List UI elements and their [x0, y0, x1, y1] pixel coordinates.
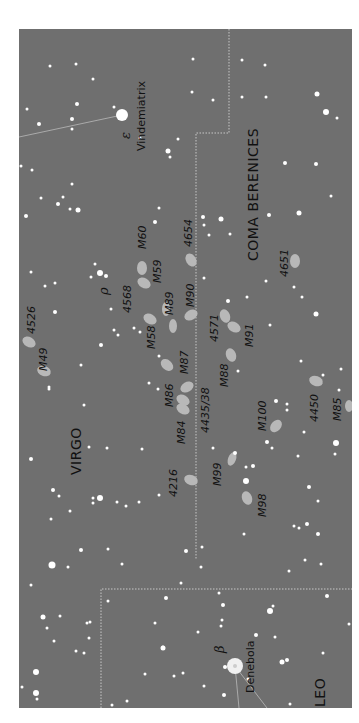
object-label-4654: 4654 [183, 219, 194, 247]
stars [20, 58, 351, 707]
object-label-m49: M49 [38, 348, 49, 372]
object-label-m85: M85 [332, 398, 343, 422]
object-label-m84: M84 [176, 421, 187, 445]
greek-label-epsilon: ε [119, 132, 132, 139]
object-label-m89: M89 [164, 292, 175, 316]
object-label-m88: M88 [219, 364, 230, 388]
object-label-m87: M87 [179, 351, 190, 375]
object-label-m100: M100 [257, 401, 268, 432]
object-label-m91: M91 [244, 324, 255, 348]
object-label-m98: M98 [257, 494, 268, 518]
constellation-label-coma-berenices: COMA BERENICES [246, 128, 260, 261]
greek-label-beta: β [213, 645, 226, 653]
object-label-4571: 4571 [209, 314, 220, 342]
object-label-m90: M90 [185, 284, 196, 308]
star-label-vindemiatrix: Vindemiatrix [136, 81, 147, 151]
object-label-4216: 4216 [168, 469, 179, 497]
object-label-4651: 4651 [279, 249, 290, 277]
object-label-m99: M99 [212, 463, 223, 487]
object-label-m58: M58 [146, 326, 157, 350]
object-label-m59: M59 [152, 260, 163, 284]
greek-label-rho: ρ [97, 287, 110, 295]
object-label-m86: M86 [164, 384, 175, 408]
object-label-4526: 4526 [26, 306, 37, 334]
constellation-label-virgo: VIRGO [69, 427, 83, 475]
object-label-m60: M60 [137, 226, 148, 250]
star-chart: VIRGO COMA BERENICES LEO Vindemiatrix ε … [19, 29, 352, 708]
object-label-4450: 4450 [309, 394, 320, 422]
object-label-4568: 4568 [122, 285, 133, 313]
constellation-label-leo: LEO [313, 678, 327, 707]
object-label-4435-38: 4435/38 [200, 387, 211, 433]
star-label-denebola: Denebola [245, 641, 256, 694]
